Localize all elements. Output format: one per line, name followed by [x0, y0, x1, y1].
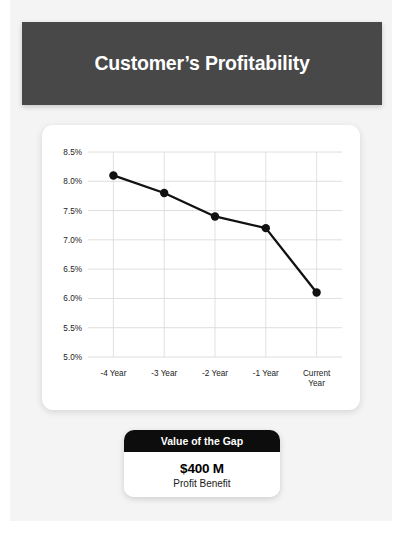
x-tick-label: -4 Year — [100, 369, 126, 378]
slide-canvas: Customer’s Profitability 5.0%5.5%6.0%6.5… — [10, 0, 392, 521]
y-tick-label: 6.5% — [63, 265, 82, 274]
page-title: Customer’s Profitability — [94, 52, 309, 75]
data-point — [211, 212, 219, 220]
gap-card-header-label: Value of the Gap — [124, 430, 280, 452]
y-axis-tick-labels: 5.0%5.5%6.0%6.5%7.0%7.5%8.0%8.5% — [63, 148, 82, 362]
chart-card: 5.0%5.5%6.0%6.5%7.0%7.5%8.0%8.5% -4 Year… — [42, 125, 360, 410]
data-point — [312, 288, 320, 296]
y-tick-label: 6.0% — [63, 294, 82, 303]
y-tick-label: 8.5% — [63, 148, 82, 157]
y-tick-label: 7.0% — [63, 236, 82, 245]
profitability-line-chart: 5.0%5.5%6.0%6.5%7.0%7.5%8.0%8.5% -4 Year… — [42, 125, 360, 410]
gap-value: $400 M — [180, 461, 224, 476]
y-tick-label: 5.0% — [63, 353, 82, 362]
x-tick-label: -3 Year — [151, 369, 177, 378]
data-point — [160, 189, 168, 197]
x-axis-tick-labels: -4 Year-3 Year-2 Year-1 YearCurrentYear — [100, 369, 331, 388]
y-tick-label: 5.5% — [63, 324, 82, 333]
gap-card-body: $400 M Profit Benefit — [124, 452, 280, 497]
y-tick-label: 8.0% — [63, 177, 82, 186]
y-tick-label: 7.5% — [63, 207, 82, 216]
header-bar: Customer’s Profitability — [22, 22, 382, 105]
x-tick-label: -1 Year — [253, 369, 279, 378]
value-of-gap-card: Value of the Gap $400 M Profit Benefit — [124, 430, 280, 497]
x-tick-label: -2 Year — [202, 369, 228, 378]
gap-caption: Profit Benefit — [173, 478, 230, 489]
data-point — [262, 224, 270, 232]
x-tick-label: CurrentYear — [303, 369, 331, 388]
data-point — [109, 171, 117, 179]
